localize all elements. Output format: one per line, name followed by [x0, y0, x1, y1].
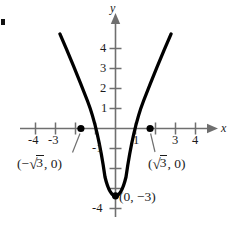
- x-axis: [20, 124, 218, 133]
- x-tick-label-minus4: -4: [28, 134, 38, 147]
- vertex-label: (0, −3): [119, 190, 156, 204]
- x-tick-label-1: 1: [133, 134, 139, 147]
- x-tick-label-4: 4: [192, 134, 198, 147]
- left-root-minus: −: [22, 156, 30, 171]
- left-root-radical-group: √3: [29, 155, 44, 171]
- left-root-radicand: 3: [36, 155, 44, 170]
- x-axis-label: x: [221, 122, 226, 134]
- y-axis-label: y: [110, 2, 115, 14]
- graph-figure: x y -4 -3 1 3 4 4 3 2 1 -1 -4 (−√3, 0) (…: [0, 0, 233, 227]
- x-tick-label-3: 3: [172, 134, 178, 147]
- left-root-leader: [73, 134, 81, 153]
- right-root-radicand: 3: [160, 155, 168, 170]
- y-axis: [111, 13, 120, 217]
- left-root-point: [77, 125, 84, 132]
- y-tick-label-4: 4: [100, 42, 106, 55]
- left-root-label: (−√3, 0): [17, 155, 62, 171]
- y-tick-label-3: 3: [100, 62, 106, 75]
- right-root-leader: [151, 134, 155, 153]
- right-root-radical-group: √3: [153, 155, 168, 171]
- y-tick-label-2: 2: [100, 82, 106, 95]
- right-root-point: [147, 125, 154, 132]
- right-root-label: (√3, 0): [148, 155, 185, 171]
- parabola-plot: [0, 0, 233, 227]
- y-tick-label-1: 1: [101, 102, 107, 115]
- y-tick-label-minus1: -1: [92, 142, 102, 155]
- right-root-tail: , 0): [167, 156, 185, 171]
- left-root-tail: , 0): [44, 156, 62, 171]
- x-tick-label-minus3: -3: [48, 134, 58, 147]
- y-tick-label-minus4: -4: [92, 202, 102, 215]
